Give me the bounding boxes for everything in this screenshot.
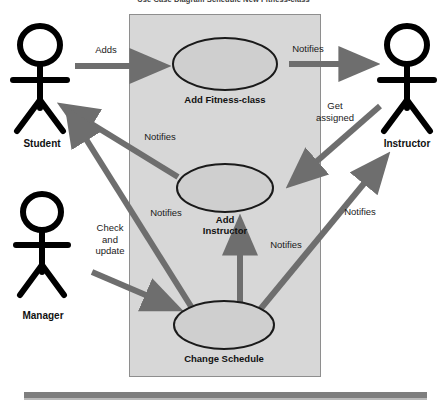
edge-label-notifies-instructor: Notifies — [278, 43, 338, 55]
edge-check-and-update — [92, 272, 176, 308]
use-case-add-instructor[interactable] — [177, 164, 273, 212]
edge-label-notifies-student-1: Notifies — [130, 131, 190, 143]
edge-label-notifies-student-2: Notifies — [136, 207, 196, 219]
actor-student[interactable] — [13, 26, 67, 131]
actor-label-manager: Manager — [0, 310, 86, 321]
actor-label-student: Student — [0, 138, 84, 149]
diagram-graphics — [0, 0, 447, 408]
edge-label-check-and-update: Check and update — [80, 222, 140, 257]
use-case-change-schedule[interactable] — [174, 301, 274, 349]
use-case-label-add-fitness-class: Add Fitness-class — [155, 94, 295, 105]
actor-label-instructor: Instructor — [365, 138, 447, 149]
edge-label-notifies-instructor-2: Notifies — [330, 206, 390, 218]
use-case-diagram: Use Case Diagram Schedule New Fitness-cl… — [0, 0, 447, 408]
edge-notifies-instructor-2 — [258, 158, 385, 312]
actor-instructor[interactable] — [380, 26, 434, 131]
use-case-label-change-schedule: Change Schedule — [154, 353, 294, 364]
edge-label-get-assigned: Get assigned — [300, 100, 370, 123]
bottom-divider-bar — [24, 392, 427, 398]
edge-label-adds: Adds — [78, 44, 134, 56]
use-case-add-fitness-class[interactable] — [173, 38, 277, 90]
edge-label-notifies-add-instructor: Notifies — [256, 239, 316, 251]
actor-manager[interactable] — [16, 194, 68, 295]
